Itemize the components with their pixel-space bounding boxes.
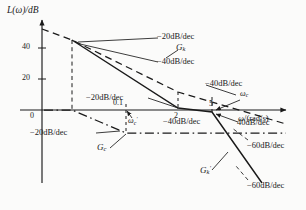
- curve-label-Gkp-prime: ′: [209, 164, 210, 171]
- leader-Gc: [110, 134, 126, 148]
- slope-label-9: −60dB/dec: [247, 181, 284, 190]
- leader-Gk-prime: [212, 152, 228, 170]
- leader-s1: [78, 38, 158, 42]
- y-tick-label-20: 20: [22, 74, 30, 82]
- leader-s8: [232, 128, 248, 140]
- freq-marker-wc-prime: ωc′: [128, 117, 137, 126]
- slope-label-7: −40dB/dec: [163, 117, 200, 126]
- y-tick-label-40: 40: [22, 43, 30, 51]
- leader-wc: [216, 100, 240, 110]
- axes-group: [20, 20, 286, 183]
- curve-label-Gk-prime: Gk′: [200, 165, 211, 176]
- leader-s6: [216, 114, 238, 122]
- curve-label-Gc-sub: c: [104, 145, 107, 152]
- x-tick-label-5: 5: [209, 100, 213, 108]
- bode-plot-graphic: [0, 0, 306, 210]
- freq-marker-wc: ωc: [240, 90, 248, 99]
- slope-label-6: 40dB/dec: [237, 118, 270, 127]
- curve-label-Gk-sub: k: [183, 45, 186, 52]
- slope-label-8: −60dB/dec: [247, 141, 284, 150]
- figure-canvas: L(ω)/dB ω/(rad/s) 40 20 0 0.1 2 5 −20dB/…: [0, 0, 306, 210]
- leader-s3: [148, 98, 178, 108]
- leader-s5: [96, 131, 120, 133]
- slope-label-3: −20dB/dec: [86, 93, 123, 102]
- slope-label-4: −40dB/dec: [205, 79, 242, 88]
- curve-label-Gc: Gc: [97, 143, 106, 153]
- leader-s9: [236, 166, 248, 180]
- curve-label-Gk: Gk: [176, 43, 185, 53]
- slope-label-2: −40dB/dec: [157, 57, 194, 66]
- slope-label-5: −20dB/dec: [30, 128, 67, 137]
- freq-wcp-prime: ′: [136, 116, 137, 122]
- freq-wc-sub: c: [246, 92, 249, 98]
- y-tick-label-0: 0: [30, 112, 34, 120]
- y-axis-label: L(ω)/dB: [7, 6, 39, 16]
- slope-label-1: −20dB/dec: [157, 32, 194, 41]
